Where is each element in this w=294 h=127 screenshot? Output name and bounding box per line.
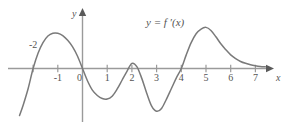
x-tick-label-6: 6 (221, 73, 241, 83)
derivative-graph-figure: -2 -1 0 1 2 3 4 5 6 7 y x y = f ′(x) (0, 0, 294, 127)
curve-equation-label: y = f ′(x) (146, 17, 184, 28)
x-tick-label-4: 4 (171, 73, 191, 83)
x-tick-label-7: 7 (245, 73, 265, 83)
x-tick-label-1: 1 (97, 73, 117, 83)
x-axis (8, 65, 274, 72)
y-axis-label: y (72, 9, 76, 19)
y-axis (79, 8, 86, 122)
x-tick-label-neg1: -1 (48, 73, 68, 83)
y-axis-arrowhead (79, 8, 86, 16)
x-tick-label-3: 3 (147, 73, 167, 83)
x-tick-label-2: 2 (122, 73, 142, 83)
x-tick-label-0: 0 (70, 73, 90, 83)
x-axis-arrowhead (266, 65, 274, 72)
x-tick-label-neg2: -2 (23, 40, 43, 50)
x-tick-label-5: 5 (196, 73, 216, 83)
x-axis-label: x (276, 73, 280, 83)
